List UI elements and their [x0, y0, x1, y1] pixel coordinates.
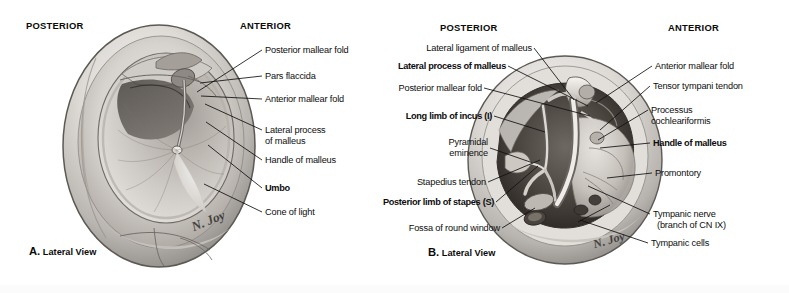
label-b-tympanic-cells: Tympanic cells [651, 238, 709, 249]
label-b-lateral-ligament-of-malleus: Lateral ligament of malleus [284, 43, 532, 54]
label-b-long-limb-of-incus: Long limb of incus (I) [284, 111, 492, 122]
label-a-anterior-mallear-fold: Anterior mallear fold [265, 94, 344, 105]
label-b-fossa-of-round-window: Fossa of round window [284, 223, 500, 234]
label-b-tympanic-nerve: Tympanic nerve [653, 209, 716, 220]
label-a-lateral-process: Lateral process [265, 125, 326, 136]
label-a-cone-of-light: Cone of light [265, 207, 315, 218]
panel-b-caption-text: Lateral View [442, 248, 495, 258]
label-b-tympanic-nerve-line2: (branch of CN IX) [657, 220, 726, 231]
label-b-handle-of-malleus: Handle of malleus [653, 138, 727, 149]
panel-b-orientation-posterior: POSTERIOR [440, 22, 497, 33]
label-b-pyramidal: Pyramidal [284, 137, 488, 148]
label-b-tensor-tympani-tendon: Tensor tympani tendon [653, 81, 743, 92]
panel-a-orientation-anterior: ANTERIOR [240, 20, 291, 31]
anatomy-plate: N. Joy [0, 0, 789, 293]
panel-a-orientation-posterior: POSTERIOR [26, 20, 83, 31]
panel-a-caption-text: Lateral View [43, 247, 96, 257]
bottom-band [0, 285, 789, 293]
label-b-posterior-limb-of-stapes: Posterior limb of stapes (S) [284, 197, 494, 208]
label-b-processus: Processus [651, 105, 693, 116]
label-b-promontory: Promontory [655, 168, 701, 179]
label-b-cochleariformis: cochleariformis [651, 116, 711, 127]
panel-b-orientation-anterior: ANTERIOR [668, 22, 719, 33]
panel-b-caption: B. Lateral View [428, 246, 495, 258]
label-b-eminence: eminence [284, 148, 488, 159]
label-b-posterior-mallear-fold: Posterior mallear fold [284, 83, 482, 94]
label-b-long-limb-of-incus-text: Long limb of incus [406, 111, 482, 121]
panel-b-illustration [465, 52, 665, 267]
panel-a-caption: A. Lateral View [29, 245, 96, 257]
panel-b-artwork [465, 52, 665, 267]
label-b-lateral-process-of-malleus: Lateral process of malleus [284, 61, 506, 72]
label-b-posterior-limb-of-stapes-text: Posterior limb of stapes [383, 197, 480, 207]
label-b-long-limb-of-incus-suffix: (I) [484, 111, 492, 121]
panel-a-caption-letter: A. [29, 245, 40, 257]
panel-a-illustration [60, 22, 258, 270]
label-a-pars-flaccida: Pars flaccida [265, 71, 316, 82]
label-b-stapedius-tendon: Stapedius tendon [284, 177, 486, 188]
panel-b-caption-letter: B. [428, 246, 439, 258]
label-b-anterior-mallear-fold: Anterior mallear fold [655, 61, 734, 72]
label-b-posterior-limb-of-stapes-suffix: (S) [483, 197, 494, 207]
panel-a-artwork [60, 22, 258, 270]
